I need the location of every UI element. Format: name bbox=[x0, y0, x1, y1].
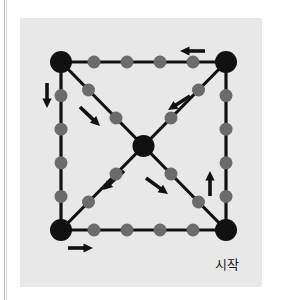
minor-node bbox=[187, 56, 200, 69]
minor-node bbox=[220, 89, 233, 102]
major-node-corner-top-left bbox=[50, 51, 72, 73]
minor-node bbox=[165, 168, 178, 181]
minor-node bbox=[55, 156, 68, 169]
minor-node bbox=[55, 123, 68, 136]
minor-node bbox=[110, 112, 123, 125]
graph-diagram bbox=[20, 18, 262, 287]
minor-node bbox=[88, 56, 101, 69]
arrow-left-edge-downward-head bbox=[42, 99, 51, 109]
minor-node bbox=[121, 224, 134, 237]
minor-node bbox=[154, 56, 167, 69]
arrow-top-edge-leftward-head bbox=[180, 46, 190, 55]
arrow-right-edge-upward bbox=[205, 171, 214, 196]
diagonal-bottom-right-to-center bbox=[144, 146, 227, 230]
minor-node bbox=[88, 224, 101, 237]
arrow-bottom-edge-rightward bbox=[68, 243, 93, 252]
diagonal-top-right-to-center bbox=[144, 62, 227, 146]
major-node-corner-top-right bbox=[215, 51, 237, 73]
major-node-corner-bottom-left bbox=[50, 219, 72, 241]
minor-node bbox=[121, 56, 134, 69]
arrow-diagonal-upper-left-down-right-shaft bbox=[80, 107, 95, 121]
arrow-left-edge-downward bbox=[42, 83, 51, 108]
minor-node bbox=[82, 196, 95, 209]
major-node-corner-bottom-right bbox=[215, 219, 237, 241]
minor-node bbox=[187, 224, 200, 237]
arrow-diagonal-lower-right-down-right-shaft bbox=[146, 178, 162, 190]
minor-node bbox=[220, 123, 233, 136]
page-rule-inner bbox=[6, 0, 7, 300]
minor-node bbox=[82, 84, 95, 97]
minor-node bbox=[110, 168, 123, 181]
arrow-bottom-edge-rightward-head bbox=[84, 243, 94, 252]
minor-node bbox=[55, 190, 68, 203]
minor-node bbox=[220, 156, 233, 169]
page-rule-outer bbox=[4, 0, 5, 300]
arrow-diagonal-upper-left-down-right bbox=[80, 107, 100, 126]
minor-node bbox=[192, 84, 205, 97]
arrow-right-edge-upward-head bbox=[205, 171, 214, 181]
minor-node bbox=[55, 89, 68, 102]
start-label: 시작 bbox=[215, 254, 239, 273]
diagonal-bottom-left-to-center bbox=[61, 146, 144, 230]
minor-node bbox=[220, 190, 233, 203]
minor-node bbox=[165, 112, 178, 125]
arrow-diagonal-lower-right-down-right bbox=[146, 178, 168, 194]
diagonal-top-left-to-center bbox=[61, 62, 144, 146]
arrow-top-edge-leftward bbox=[180, 46, 205, 55]
minor-node bbox=[154, 224, 167, 237]
minor-node bbox=[192, 196, 205, 209]
major-node-center bbox=[133, 135, 155, 157]
figure-panel: 시작 bbox=[20, 18, 262, 287]
